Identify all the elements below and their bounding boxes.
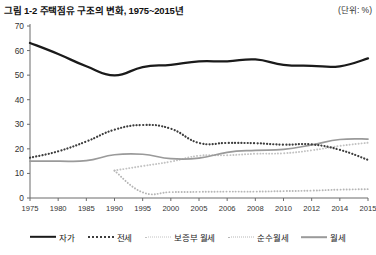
series-line-solid-black	[30, 43, 368, 75]
chart-plot-area: 0102030405060701975198019851990199520002…	[0, 16, 376, 220]
x-tick-label: 2005	[191, 204, 208, 213]
series-line-dotted-light2	[115, 171, 369, 195]
line-chart: 0102030405060701975198019851990199520002…	[0, 16, 376, 220]
legend-swatch-dotted-dark	[88, 233, 114, 241]
figure-header: 그림 1-2 주택점유 구조의 변화, 1975~2015년 (단위: %)	[4, 3, 372, 17]
y-tick-label: 50	[15, 70, 25, 80]
x-tick-label: 2010	[275, 204, 292, 213]
figure-root: 그림 1-2 주택점유 구조의 변화, 1975~2015년 (단위: %) 0…	[0, 0, 376, 255]
legend-swatch-dotted-light2	[228, 233, 254, 241]
x-tick-label: 2006	[219, 204, 236, 213]
legend-swatch-dotted-light	[145, 233, 171, 241]
legend-item-label: 전세	[117, 231, 133, 243]
x-tick-label: 2015	[360, 204, 376, 213]
legend-item-label: 자가	[59, 231, 75, 243]
figure-title: 그림 1-2 주택점유 구조의 변화, 1975~2015년	[4, 3, 183, 17]
x-tick-label: 1985	[78, 204, 95, 213]
x-tick-label: 1995	[134, 204, 151, 213]
x-tick-label: 1990	[106, 204, 123, 213]
legend-item-label: 월세	[330, 231, 346, 243]
y-tick-label: 0	[19, 193, 24, 203]
legend-item-5[interactable]: 월세	[301, 231, 346, 243]
y-tick-label: 60	[15, 46, 25, 56]
legend-item-label: 보증부 월세	[174, 231, 215, 243]
legend-item-1[interactable]: 자가	[30, 231, 75, 243]
legend-item-4[interactable]: 순수월세	[228, 231, 288, 243]
x-tick-label: 2000	[162, 204, 179, 213]
chart-legend: 자가전세보증부 월세순수월세월세	[0, 228, 376, 246]
y-tick-label: 20	[15, 144, 25, 154]
figure-unit-label: (단위: %)	[338, 3, 372, 15]
x-tick-label: 1975	[22, 204, 39, 213]
x-tick-label: 2012	[303, 204, 320, 213]
y-tick-label: 30	[15, 119, 25, 129]
legend-swatch-solid-gray	[301, 233, 327, 241]
x-tick-label: 1980	[50, 204, 67, 213]
legend-swatch-solid-black	[30, 233, 56, 241]
legend-item-2[interactable]: 전세	[88, 231, 133, 243]
y-tick-label: 10	[15, 168, 25, 178]
legend-item-3[interactable]: 보증부 월세	[145, 231, 215, 243]
legend-item-label: 순수월세	[257, 231, 288, 243]
y-tick-label: 40	[15, 95, 25, 105]
x-tick-label: 2014	[331, 204, 348, 213]
series-line-dotted-dark	[30, 125, 368, 160]
x-tick-label: 2008	[247, 204, 264, 213]
y-tick-label: 70	[15, 21, 25, 31]
